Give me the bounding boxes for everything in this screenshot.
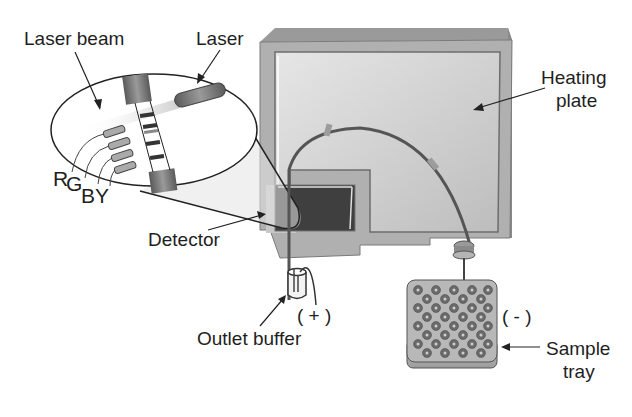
label-heating-plate-1: Heating	[541, 67, 607, 88]
label-detector: Detector	[148, 229, 220, 250]
dye-label-g: G	[66, 172, 82, 195]
label-laser: Laser	[196, 28, 244, 49]
outlet-buffer-vial	[288, 268, 316, 305]
dye-label-y: Y	[95, 184, 109, 207]
label-sample-tray-2: tray	[563, 361, 595, 382]
sample-tray	[407, 280, 497, 368]
label-laser-beam: Laser beam	[24, 28, 124, 49]
label-heating-plate-2: plate	[556, 90, 597, 111]
label-positive-electrode: ( + )	[297, 305, 331, 326]
sample-tray-connector	[453, 241, 475, 285]
dye-label-b: B	[81, 184, 95, 207]
label-outlet-buffer: Outlet buffer	[197, 328, 302, 349]
capillary-electrophoresis-diagram: Laser beam Laser R G B Y Heating plate D…	[0, 0, 632, 417]
label-sample-tray-1: Sample	[546, 338, 610, 359]
label-negative-electrode: ( - )	[502, 306, 532, 327]
